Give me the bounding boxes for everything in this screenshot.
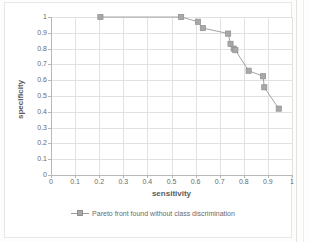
x-axis-tick — [196, 175, 197, 178]
y-axis-tick-label: 0.3 — [37, 124, 47, 132]
data-point-marker — [195, 19, 200, 24]
data-point-marker — [276, 106, 281, 111]
page-edge-line-right — [303, 0, 304, 242]
y-axis-tick-label: 0 — [43, 171, 47, 179]
x-axis-tick-label: 0.9 — [263, 178, 273, 186]
x-axis-tick — [147, 175, 148, 178]
y-axis-title-container: specificity — [13, 17, 23, 175]
x-axis-tick — [172, 175, 173, 178]
x-axis-tick-label: 0.8 — [239, 178, 249, 186]
y-axis-tick-label: 0.6 — [37, 76, 47, 84]
x-axis-tick-label: 0.5 — [167, 178, 177, 186]
gridline-vertical — [292, 17, 293, 175]
y-axis-tick-label: 0.8 — [37, 45, 47, 53]
chart-frame: specificity 00.10.20.30.40.50.60.70.80.9… — [4, 2, 292, 238]
data-point-marker — [246, 68, 251, 73]
x-axis-tick — [292, 175, 293, 178]
chart-legend: Pareto front found without class discrim… — [9, 209, 297, 217]
legend-marker-icon — [71, 209, 89, 217]
x-axis-tick-label: 1 — [290, 178, 294, 186]
x-axis-tick — [244, 175, 245, 178]
x-axis-tick-label: 0.2 — [94, 178, 104, 186]
plot-area — [51, 17, 292, 175]
x-axis-tick — [268, 175, 269, 178]
data-point-marker — [200, 25, 205, 30]
x-axis-tick-label: 0.1 — [70, 178, 80, 186]
page-edge-line-left — [296, 0, 297, 242]
x-axis-tick-label: 0.6 — [191, 178, 201, 186]
data-point-marker — [260, 74, 265, 79]
y-axis-tick-label: 0.5 — [37, 92, 47, 100]
x-axis-tick-label: 0.4 — [143, 178, 153, 186]
series-pareto-front — [51, 17, 292, 175]
data-point-marker — [233, 48, 238, 53]
data-point-marker — [98, 14, 103, 19]
y-axis-tick-label: 0.1 — [37, 155, 47, 163]
x-axis-tick — [220, 175, 221, 178]
data-point-marker — [226, 31, 231, 36]
series-line — [100, 17, 278, 109]
y-axis-tick-label: 0.2 — [37, 139, 47, 147]
y-axis-tick-label: 0.9 — [37, 29, 47, 37]
x-axis-tick — [123, 175, 124, 178]
x-axis-tick — [51, 175, 52, 178]
x-axis-tick — [75, 175, 76, 178]
y-axis-tick-labels: 00.10.20.30.40.50.60.70.80.91 — [23, 17, 47, 175]
y-axis-tick-label: 0.7 — [37, 60, 47, 68]
y-axis-tick-label: 1 — [43, 13, 47, 21]
x-axis-tick-label: 0 — [49, 178, 53, 186]
x-axis-tick — [99, 175, 100, 178]
x-axis-title: sensitivity — [51, 189, 292, 198]
y-axis-tick-label: 0.4 — [37, 108, 47, 116]
x-axis-tick-label: 0.7 — [215, 178, 225, 186]
data-point-marker — [179, 14, 184, 19]
data-point-marker — [262, 85, 267, 90]
legend-entry-label: Pareto front found without class discrim… — [92, 210, 235, 217]
x-axis-tick-label: 0.3 — [118, 178, 128, 186]
